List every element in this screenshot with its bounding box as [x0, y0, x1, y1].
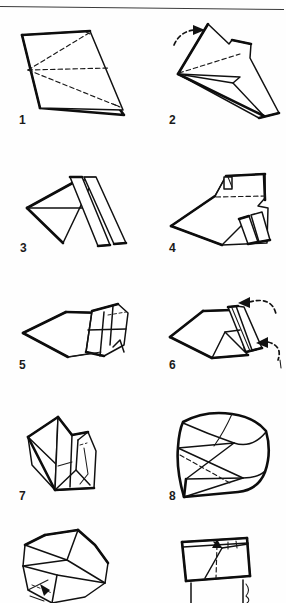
step-2-figure: [174, 24, 279, 118]
step-7-number: 7: [19, 489, 26, 503]
step-4-number: 4: [169, 241, 176, 255]
step-10-figure: [182, 538, 250, 603]
step-3-figure: [27, 177, 126, 246]
step-1-figure: [22, 31, 124, 115]
step-1-number: 1: [19, 113, 26, 127]
step-6-number: 6: [169, 358, 176, 372]
step-6-figure: [170, 297, 281, 368]
origami-diagram-page: 1 2: [0, 0, 286, 603]
step-5-figure: [23, 304, 128, 357]
step-3-number: 3: [20, 241, 27, 255]
step-8-figure: [178, 413, 269, 497]
right-edge-tick: [280, 360, 281, 368]
top-rule: [0, 7, 284, 10]
step-9-figure: [23, 530, 108, 603]
diagram-canvas: 1 2: [0, 0, 286, 603]
step-7-figure: [28, 417, 96, 490]
step-8-number: 8: [169, 489, 176, 503]
step-5-number: 5: [19, 358, 26, 372]
step-4-figure: [171, 174, 270, 245]
step-2-number: 2: [169, 113, 176, 127]
